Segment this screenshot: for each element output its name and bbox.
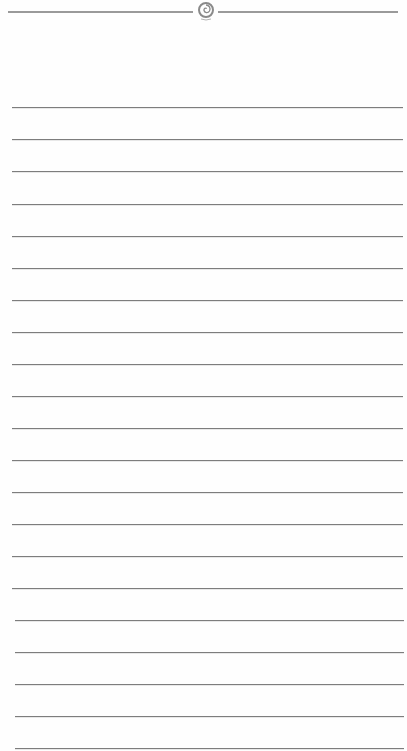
ruled-line bbox=[15, 652, 404, 653]
ruled-line bbox=[15, 620, 404, 621]
ruled-line bbox=[12, 396, 403, 397]
ruled-line bbox=[12, 428, 403, 429]
ruled-line bbox=[12, 460, 403, 461]
ruled-line bbox=[12, 588, 403, 589]
ruled-line bbox=[12, 139, 403, 140]
ruled-line bbox=[12, 332, 403, 333]
ruled-line bbox=[15, 684, 404, 685]
ruled-line bbox=[12, 204, 403, 205]
ruled-lines bbox=[0, 0, 407, 751]
ruled-line bbox=[12, 171, 403, 172]
ruled-line bbox=[12, 492, 403, 493]
ruled-line bbox=[12, 556, 403, 557]
ruled-line bbox=[12, 364, 403, 365]
ruled-line bbox=[12, 300, 403, 301]
ruled-line bbox=[15, 716, 404, 717]
ruled-line bbox=[12, 268, 403, 269]
notepaper-page bbox=[0, 0, 407, 751]
ruled-line bbox=[12, 107, 403, 108]
ruled-line bbox=[15, 748, 404, 749]
ruled-line bbox=[12, 524, 403, 525]
ruled-line bbox=[12, 236, 403, 237]
